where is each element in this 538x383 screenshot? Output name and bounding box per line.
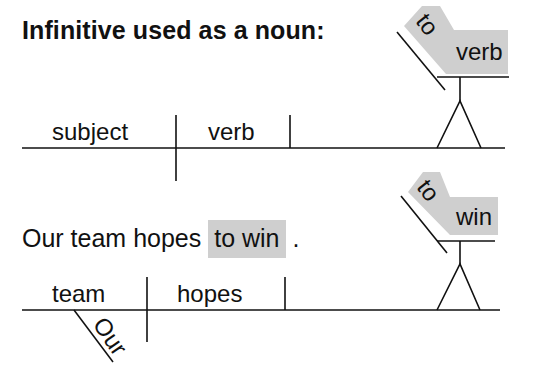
bottom-stilt-pedestal [437,264,480,310]
top-subject-label: subject [52,118,128,146]
highlighted-infinitive-phrase: to win [208,220,285,258]
sentence-prefix: Our team hopes [22,224,201,252]
example-sentence: Our team hopes to win . [22,224,299,253]
top-infinitive-verb: verb [456,38,503,66]
bottom-infinitive-verb: win [456,203,492,231]
sentence-period: . [292,224,299,252]
bottom-subject-label: team [52,280,105,308]
top-stilt-pedestal [437,101,481,148]
top-diagram-lines [22,6,509,181]
bottom-verb-label: hopes [177,280,242,308]
top-verb-label: verb [208,118,255,146]
